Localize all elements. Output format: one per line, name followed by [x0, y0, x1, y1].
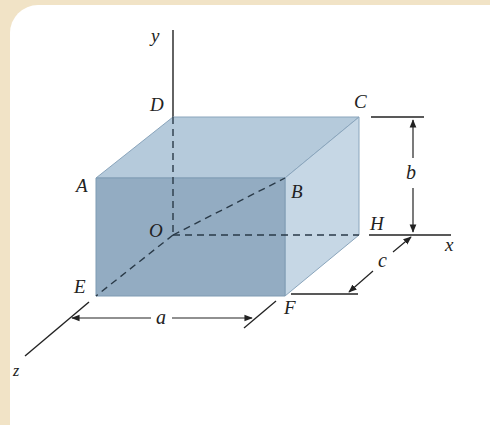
label-E: E: [73, 276, 86, 297]
label-A: A: [74, 175, 88, 196]
label-c: c: [378, 249, 387, 271]
dim-a-extension-right: [244, 301, 276, 328]
label-B: B: [291, 181, 303, 202]
z-axis: [25, 302, 89, 356]
label-z: z: [12, 362, 20, 379]
label-a: a: [156, 306, 166, 328]
dim-c-arrow-up: [393, 237, 411, 252]
label-O: O: [149, 220, 163, 241]
front-face: [96, 178, 285, 296]
label-F: F: [283, 297, 296, 318]
dim-c-arrow-down: [349, 271, 373, 292]
label-y: y: [149, 25, 160, 46]
label-x: x: [444, 234, 454, 255]
label-C: C: [354, 91, 367, 112]
label-D: D: [149, 94, 164, 115]
label-H: H: [369, 213, 385, 234]
label-b: b: [406, 161, 416, 183]
